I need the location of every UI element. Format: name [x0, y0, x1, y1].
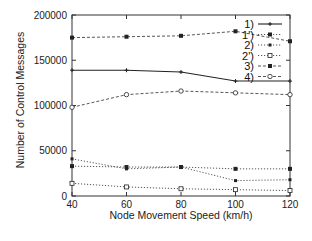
- y-tick-label: 100000: [34, 100, 68, 111]
- x-tick-label: 80: [175, 199, 187, 210]
- legend: 1)1')2)2')3)4): [242, 18, 282, 83]
- x-tick-label: 40: [66, 199, 78, 210]
- x-axis-title: Node Movement Speed (km/h): [110, 209, 253, 221]
- series-5: [70, 29, 292, 43]
- series-4: [70, 181, 292, 192]
- series-3: [71, 157, 292, 182]
- legend-label: 4): [244, 71, 254, 83]
- y-axis-title: Number of Control Messages: [14, 32, 26, 169]
- series-6: [70, 89, 292, 110]
- series-layer: [70, 29, 292, 192]
- x-axis-ticks: 406080100120: [66, 15, 298, 210]
- line-chart: Number of Control Messages Node Movement…: [0, 0, 312, 241]
- x-tick-label: 100: [227, 199, 244, 210]
- y-tick-label: 150000: [34, 55, 68, 66]
- x-tick-label: 120: [282, 199, 299, 210]
- y-tick-label: 200000: [34, 10, 68, 21]
- x-tick-label: 60: [121, 199, 133, 210]
- svg-text:Number of Control Messages: Number of Control Messages: [14, 32, 26, 169]
- y-tick-label: 50000: [39, 145, 67, 156]
- series-1: [70, 68, 292, 83]
